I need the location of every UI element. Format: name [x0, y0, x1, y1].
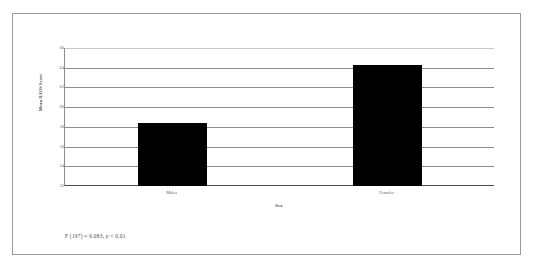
x-axis-title: Sex: [64, 203, 494, 208]
y-axis-tick-label: 60: [49, 105, 64, 109]
y-axis-tick-label: 62: [49, 85, 64, 89]
plot-area: [64, 48, 494, 186]
x-axis-tick-labels: MalesFemales: [64, 190, 494, 200]
y-axis-tick-label: 52: [49, 184, 64, 188]
bar-males: [138, 123, 207, 186]
y-axis-tick-label: 58: [49, 125, 64, 129]
x-axis-tick-label: Males: [166, 190, 177, 195]
bar-females: [353, 65, 422, 186]
y-axis-tick-labels: 6664626058565452: [49, 48, 64, 186]
y-axis-tick-label: 56: [49, 144, 64, 148]
y-axis-tick-label: 54: [49, 164, 64, 168]
statistic-annotation: F (197) = 6.083, p < 0.01: [65, 233, 126, 239]
y-axis-title: Mean RADS Score: [38, 45, 43, 141]
y-axis-tick-label: 66: [49, 46, 64, 50]
figure-frame: Mean RADS Score 6664626058565452 MalesFe…: [12, 13, 521, 255]
bar-chart: Mean RADS Score 6664626058565452 MalesFe…: [13, 14, 522, 256]
y-axis-tick-label: 64: [49, 66, 64, 70]
x-axis-tick-label: Females: [379, 190, 394, 195]
bars-layer: [65, 48, 494, 186]
